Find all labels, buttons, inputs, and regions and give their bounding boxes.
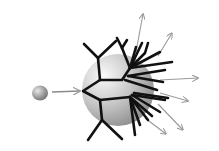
dendrimer-diagram <box>0 0 219 151</box>
small-sphere <box>32 86 48 101</box>
input-arrow <box>52 91 80 92</box>
